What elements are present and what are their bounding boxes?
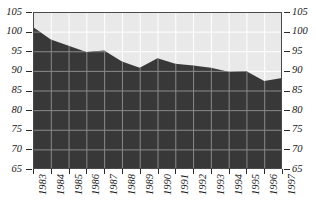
- x-axis-tick-label: 1984: [56, 174, 67, 195]
- x-axis-tick-label: 1994: [234, 174, 245, 195]
- y-axis-left-tick-label: 85: [12, 85, 23, 96]
- x-axis-tick-mark: [282, 169, 283, 174]
- x-axis-tick-label: 1992: [198, 174, 209, 195]
- y-axis-right-tick-mark: [284, 91, 290, 92]
- x-axis-tick-mark: [104, 169, 105, 174]
- plot-area: [33, 12, 282, 169]
- x-axis-tick-mark: [158, 169, 159, 174]
- y-axis-right-tick-mark: [284, 149, 290, 150]
- x-axis-tick-mark: [246, 169, 247, 174]
- x-axis-tick-label: 1989: [145, 174, 156, 195]
- y-axis-right-tick-mark: [284, 169, 290, 170]
- y-axis-right-tick-mark: [284, 71, 290, 72]
- x-axis-tick-mark: [193, 169, 194, 174]
- x-axis-tick-label: 1993: [216, 174, 227, 195]
- y-axis-left: 10510095908580757065: [0, 0, 22, 206]
- y-axis-left-tick-mark: [26, 110, 32, 111]
- x-axis-tick-label: 1983: [38, 174, 49, 195]
- y-axis-left-tick-mark: [26, 149, 32, 150]
- x-axis-tick-label: 1985: [74, 174, 85, 195]
- y-axis-left-tick-mark: [26, 32, 32, 33]
- y-axis-right-tick-mark: [284, 32, 290, 33]
- area-chart: 10510095908580757065 1051009590858075706…: [0, 0, 316, 206]
- y-axis-left-tick-mark: [26, 12, 32, 13]
- y-axis-left-tick-mark: [26, 51, 32, 52]
- y-axis-left-tick-label: 90: [12, 65, 23, 76]
- y-axis-left-tick-mark: [26, 169, 32, 170]
- y-axis-right-tick-label: 80: [292, 105, 303, 116]
- y-axis-right-tick-mark: [284, 12, 290, 13]
- x-axis-tick-label: 1986: [91, 174, 102, 195]
- y-axis-right-tick-label: 100: [292, 26, 308, 37]
- y-axis-left-tick-mark: [26, 71, 32, 72]
- y-axis-left-tick-label: 65: [12, 164, 23, 175]
- y-axis-right-tick-mark: [284, 51, 290, 52]
- y-axis-left-tick-label: 100: [6, 26, 22, 37]
- y-axis-right-tick-label: 95: [292, 46, 303, 57]
- x-axis-tick-mark: [69, 169, 70, 174]
- x-axis-tick-mark: [86, 169, 87, 174]
- x-axis-tick-mark: [51, 169, 52, 174]
- y-axis-left-tick-label: 80: [12, 105, 23, 116]
- y-axis-left-tick-label: 95: [12, 46, 23, 57]
- y-axis-right-tick-label: 105: [292, 7, 308, 18]
- y-axis-right-tick-label: 85: [292, 85, 303, 96]
- y-axis-left-tick-label: 70: [12, 144, 23, 155]
- y-axis-right-tick-label: 70: [292, 144, 303, 155]
- y-axis-right-tick-mark: [284, 130, 290, 131]
- x-axis-tick-mark: [229, 169, 230, 174]
- y-axis-left-tick-label: 75: [12, 124, 23, 135]
- y-axis-left-tick-label: 105: [6, 7, 22, 18]
- x-axis-tick-label: 1996: [269, 174, 280, 195]
- x-axis-tick-label: 1990: [163, 174, 174, 195]
- x-axis-tick-mark: [211, 169, 212, 174]
- x-axis-tick-label: 1991: [180, 174, 191, 195]
- x-axis-tick-mark: [264, 169, 265, 174]
- plot-canvas: [33, 12, 282, 169]
- x-axis-tick-label: 1995: [251, 174, 262, 195]
- x-axis-tick-label: 1987: [109, 174, 120, 195]
- x-axis-tick-label: 1997: [287, 174, 298, 195]
- y-axis-left-tick-mark: [26, 91, 32, 92]
- y-axis-right-tick-mark: [284, 110, 290, 111]
- x-axis-tick-mark: [140, 169, 141, 174]
- x-axis-tick-label: 1988: [127, 174, 138, 195]
- y-axis-right-tick-label: 90: [292, 65, 303, 76]
- x-axis-tick-mark: [122, 169, 123, 174]
- x-axis-tick-mark: [175, 169, 176, 174]
- y-axis-left-tick-mark: [26, 130, 32, 131]
- y-axis-right-tick-label: 75: [292, 124, 303, 135]
- x-axis-tick-mark: [33, 169, 34, 174]
- y-axis-right-tick-label: 65: [292, 164, 303, 175]
